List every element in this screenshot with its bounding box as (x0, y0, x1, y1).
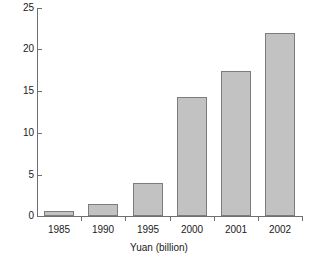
x-axis-label-2002: 2002 (258, 224, 302, 235)
y-axis-tick-mark (38, 91, 42, 92)
bar-1985 (44, 211, 74, 216)
x-axis-tick-mark (214, 217, 215, 221)
x-axis-tick-mark (170, 217, 171, 221)
y-axis-tick-label: 10 (8, 128, 34, 138)
y-axis-tick-mark (38, 8, 42, 9)
x-axis-tick-mark (258, 217, 259, 221)
bar-1995 (133, 183, 163, 216)
y-axis-tick-mark (38, 49, 42, 50)
bar-2000 (177, 97, 207, 216)
y-axis-tick-mark (38, 133, 42, 134)
x-axis-title: Yuan (billion) (0, 242, 318, 254)
bar-chart: 25 20 15 10 5 0 1985 1990 1995 2000 2001… (0, 0, 318, 266)
x-axis-tick-mark (302, 217, 303, 221)
x-axis-label-1985: 1985 (37, 224, 81, 235)
bar-1990 (88, 204, 118, 216)
x-axis-label-2000: 2000 (170, 224, 214, 235)
y-axis-line (37, 8, 38, 217)
bar-2001 (221, 71, 251, 216)
y-axis-tick-label: 5 (8, 170, 34, 180)
y-axis-tick-mark (38, 175, 42, 176)
y-axis-tick-label: 25 (8, 3, 34, 13)
y-axis-tick-label: 20 (8, 44, 34, 54)
y-axis-tick-label: 15 (8, 86, 34, 96)
x-axis-label-1995: 1995 (126, 224, 170, 235)
bar-2002 (265, 33, 295, 216)
x-axis-tick-mark (125, 217, 126, 221)
x-axis-tick-mark (81, 217, 82, 221)
x-axis-label-1990: 1990 (81, 224, 125, 235)
y-axis-tick-label: 0 (8, 211, 34, 221)
x-axis-label-2001: 2001 (214, 224, 258, 235)
